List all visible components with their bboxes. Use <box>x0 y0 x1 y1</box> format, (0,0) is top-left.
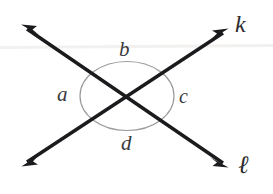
figure-canvas <box>0 0 273 194</box>
line-k-arrowhead-start <box>22 155 39 167</box>
angle-label-d: d <box>121 133 132 154</box>
angle-label-a: a <box>57 84 68 105</box>
line-k-arrowhead-end <box>211 29 229 40</box>
scanline-artifact <box>0 46 273 48</box>
angle-label-c: c <box>179 86 188 106</box>
line-label-ell: ℓ <box>238 152 248 177</box>
line-l-arrowhead-start <box>21 25 39 36</box>
angle-label-b: b <box>119 39 130 60</box>
line-label-k: k <box>235 12 246 36</box>
geometry-figure: a b c d k ℓ <box>0 0 273 194</box>
